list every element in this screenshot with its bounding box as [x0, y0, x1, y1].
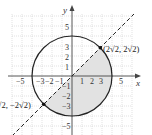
- svg-text:−2: −2: [62, 92, 71, 101]
- svg-text:3: 3: [65, 43, 69, 52]
- x-axis-label: x: [135, 78, 140, 88]
- svg-text:−3: −3: [36, 77, 45, 86]
- svg-text:2: 2: [90, 77, 94, 86]
- svg-text:5: 5: [119, 77, 123, 86]
- svg-text:−2: −2: [45, 77, 54, 86]
- line-y-equals-x: [12, 14, 134, 135]
- y-axis-label: y: [62, 5, 67, 15]
- svg-text:1: 1: [80, 77, 84, 86]
- point-upper-intersection: [99, 46, 103, 50]
- svg-text:−3: −3: [62, 102, 71, 111]
- point-lower-intersection: [42, 103, 46, 107]
- svg-text:1: 1: [65, 63, 69, 72]
- svg-text:2: 2: [65, 53, 69, 62]
- svg-text:−1: −1: [62, 82, 71, 91]
- svg-text:−5: −5: [62, 122, 71, 131]
- svg-text:3: 3: [99, 77, 103, 86]
- upper-point-label: (2√2, 2√2): [103, 44, 139, 54]
- svg-text:−5: −5: [16, 77, 25, 86]
- svg-text:5: 5: [65, 23, 69, 32]
- y-axis-arrow-icon: [70, 5, 75, 11]
- coordinate-diagram: x y −5 −3 −2 −1 1 2 3 5 5 3 2 1 −1 −2 −3…: [0, 0, 152, 135]
- lower-point-label: (−2√2, −2√2): [0, 100, 31, 110]
